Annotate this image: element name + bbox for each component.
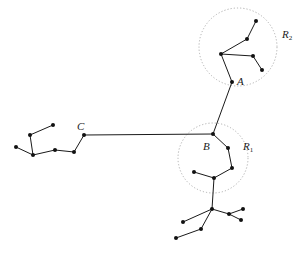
node (260, 68, 264, 72)
node (219, 52, 223, 56)
node (72, 150, 76, 154)
edges (16, 21, 262, 238)
node (226, 146, 230, 150)
node (192, 170, 196, 174)
label-c: C (77, 120, 85, 132)
node (199, 227, 203, 231)
label-r1: R1 (242, 140, 254, 154)
node (14, 145, 18, 149)
node (210, 207, 214, 211)
node (254, 19, 258, 23)
tree-diagram: A B C R2 R1 (0, 0, 305, 254)
node (230, 166, 234, 170)
node (181, 220, 185, 224)
node (212, 176, 216, 180)
node (245, 37, 249, 41)
node-a (230, 80, 234, 84)
node (251, 54, 255, 58)
label-r2: R2 (281, 28, 293, 42)
node (31, 153, 35, 157)
node-c (82, 133, 86, 137)
nodes (14, 19, 264, 240)
node (241, 207, 245, 211)
node (28, 133, 32, 137)
label-a: A (236, 75, 244, 87)
node-b (211, 132, 215, 136)
label-b: B (203, 140, 210, 152)
node (51, 123, 55, 127)
node (53, 148, 57, 152)
node (239, 218, 243, 222)
node (227, 212, 231, 216)
node (174, 236, 178, 240)
